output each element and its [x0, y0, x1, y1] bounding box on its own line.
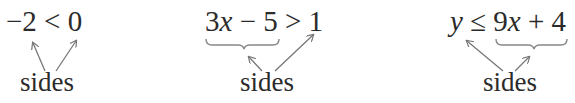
inequality-1: −2 < 0: [6, 4, 82, 38]
brace-right-side: [496, 39, 567, 49]
operator: >: [285, 5, 301, 37]
right-side: 9x + 4: [493, 5, 566, 37]
inequality-2: 3x − 5 > 1: [205, 4, 323, 38]
left-side: −2: [6, 5, 37, 37]
brace-left-side: [206, 39, 279, 49]
right-side: 1: [309, 5, 324, 37]
left-side: y: [450, 5, 463, 37]
left-side: 3x − 5: [205, 5, 278, 37]
sides-label-2: sides: [240, 66, 294, 98]
sides-label-1: sides: [20, 66, 74, 98]
operator: <: [44, 5, 60, 37]
right-side: 0: [68, 5, 83, 37]
operator: ≤: [470, 5, 486, 37]
sides-label-3: sides: [483, 66, 537, 98]
inequality-3: y ≤ 9x + 4: [450, 4, 566, 38]
